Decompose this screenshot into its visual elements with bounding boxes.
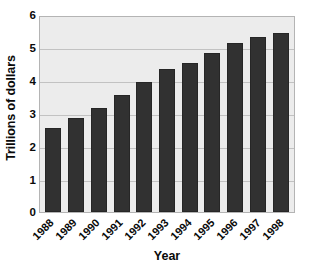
y-tick-label: 3 bbox=[30, 109, 36, 121]
y-tick-label: 2 bbox=[30, 142, 36, 154]
y-axis-title: Trillions of dollars bbox=[0, 0, 22, 215]
y-tick-label: 6 bbox=[30, 10, 36, 22]
plot-area bbox=[39, 16, 295, 213]
bar bbox=[159, 69, 175, 212]
bar bbox=[250, 37, 266, 213]
y-tick-label: 0 bbox=[30, 207, 36, 219]
bar bbox=[273, 33, 289, 212]
bar bbox=[91, 108, 107, 212]
y-tick-label: 1 bbox=[30, 175, 36, 187]
bar bbox=[68, 118, 84, 212]
x-axis-tick-labels: 1988198919901991199219931994199519961997… bbox=[39, 214, 295, 248]
bar bbox=[182, 63, 198, 213]
bar bbox=[136, 82, 152, 212]
y-axis-title-text: Trillions of dollars bbox=[4, 55, 18, 161]
bar-chart-figure: Trillions of dollars 6 5 4 3 2 1 0 19881… bbox=[0, 0, 309, 269]
bar-series bbox=[40, 17, 294, 212]
bar bbox=[204, 53, 220, 212]
x-tick-slot: 1998 bbox=[274, 214, 290, 248]
y-tick-label: 5 bbox=[30, 43, 36, 55]
bar bbox=[227, 43, 243, 212]
bar bbox=[45, 128, 61, 213]
y-tick-label: 4 bbox=[30, 76, 36, 88]
x-axis-title: Year bbox=[39, 249, 295, 263]
bar bbox=[114, 95, 130, 212]
